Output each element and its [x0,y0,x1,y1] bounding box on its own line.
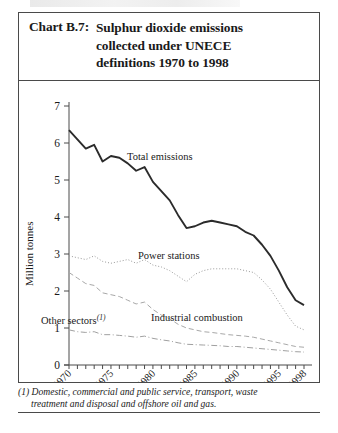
chart-number-label: Chart B.7: [29,19,89,35]
y-axis-label: Million tonnes [23,222,35,286]
series-annotations: Total emissionsPower stationsIndustrial … [41,151,244,326]
y-tick-label: 5 [54,174,60,186]
chart-title-line-3: definitions 1970 to 1998 [96,54,243,72]
annotation-other-sectors: Other sectors(1) [41,313,106,326]
annotation-power-stations: Power stations [138,250,200,261]
line-chart-svg: 01234567 1970197519801985199019951998 Mi… [19,81,319,382]
footnote-line-2: treatment and disposal and offshore oil … [18,398,320,410]
chart-title-box: Chart B.7: Sulphur dioxide emissions col… [19,13,319,81]
x-axis-tick-labels: 1970197519801985199019951998 [51,368,309,382]
chart-page: Chart B.7: Sulphur dioxide emissions col… [0,0,338,433]
x-tick-label: 1995 [261,368,284,382]
footnote-rule [18,412,320,413]
y-axis-tick-labels: 01234567 [54,100,60,371]
x-tick-label: 1985 [177,368,200,382]
axis-lines [64,102,312,369]
series-line-industrial-combustion [69,273,304,348]
x-tick-label: 1980 [135,368,158,382]
y-tick-label: 3 [54,248,60,260]
y-tick-label: 7 [54,100,60,112]
annotation-total-emissions: Total emissions [127,151,192,162]
y-tick-label: 2 [54,285,60,297]
page-artifact-line [30,0,240,7]
page-title: Sulphur dioxide emissions collected unde… [96,19,243,72]
y-tick-label: 6 [54,137,60,149]
x-tick-label: 1998 [286,368,309,382]
x-tick-label: 1975 [93,368,116,382]
chart-panel: Chart B.7: Sulphur dioxide emissions col… [18,12,320,383]
footnote: (1) Domestic, commercial and public serv… [18,386,320,411]
chart-title-line-1: Sulphur dioxide emissions [96,19,243,37]
y-tick-label: 0 [54,359,60,371]
x-tick-label: 1990 [219,368,242,382]
chart-title-line-2: collected under UNECE [96,37,243,55]
annotation-industrial-combustion: Industrial combustion [151,312,244,323]
footnote-line-1: (1) Domestic, commercial and public serv… [18,386,257,397]
y-tick-label: 4 [54,211,60,223]
plot-area: 01234567 1970197519801985199019951998 Mi… [19,81,319,382]
